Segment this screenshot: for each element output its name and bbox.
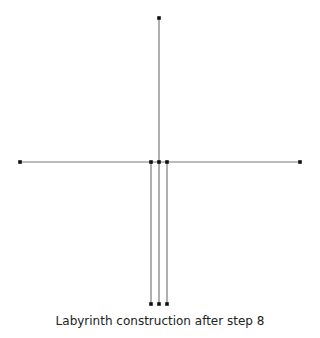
diagram-nodes bbox=[18, 16, 302, 306]
figure-caption: Labyrinth construction after step 8 bbox=[0, 314, 320, 328]
node-top bbox=[157, 16, 161, 20]
node-bottom-left bbox=[149, 302, 153, 306]
node-bottom-right bbox=[165, 302, 169, 306]
node-center-left bbox=[149, 160, 153, 164]
node-center-right bbox=[165, 160, 169, 164]
node-right bbox=[298, 160, 302, 164]
node-left bbox=[18, 160, 22, 164]
labyrinth-diagram bbox=[0, 0, 320, 310]
node-center bbox=[157, 160, 161, 164]
node-bottom-center bbox=[157, 302, 161, 306]
